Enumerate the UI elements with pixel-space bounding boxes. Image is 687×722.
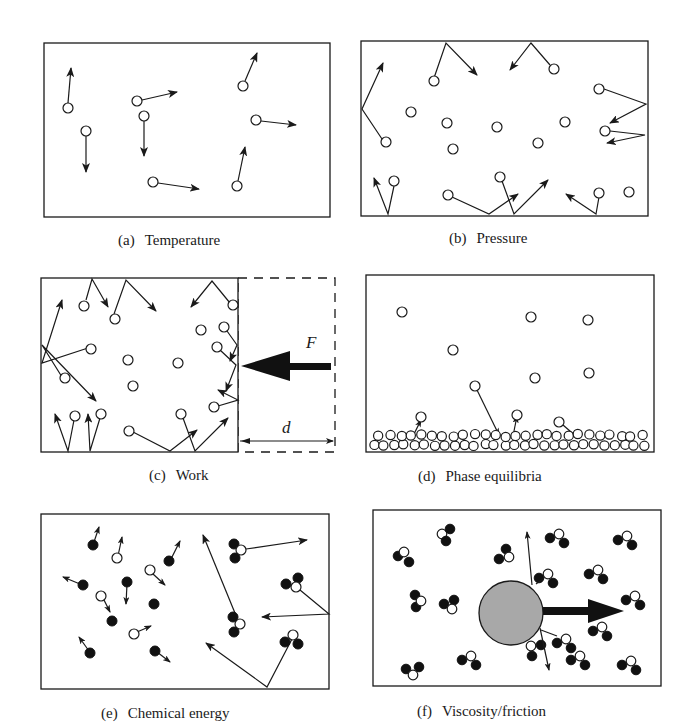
panel-temperature: (a)Temperature xyxy=(44,43,330,249)
container-box xyxy=(41,278,238,452)
distance-label: d xyxy=(282,418,291,437)
panel-caption-work: (c)Work xyxy=(149,467,209,484)
panel-pressure: (b)Pressure xyxy=(361,41,648,247)
force-label: F xyxy=(305,333,317,352)
container-box xyxy=(366,275,654,452)
panel-chemical-energy: (e)Chemical energy xyxy=(41,514,329,722)
panel-caption-pressure: (b)Pressure xyxy=(449,230,528,247)
force-arrow xyxy=(241,351,331,381)
displacement-arrow xyxy=(240,438,333,444)
panel-caption-temperature: (a)Temperature xyxy=(118,232,221,249)
panel-viscosity-friction: (f)Viscosity/friction xyxy=(373,510,661,720)
panel-phase-equilibria: (d)Phase equilibria xyxy=(366,275,654,485)
panel-caption-viscosity-friction: (f)Viscosity/friction xyxy=(417,703,547,720)
figure-canvas: (a)Temperature xyxy=(0,0,687,722)
moving-sphere xyxy=(479,581,543,645)
panel-caption-phase-equilibria: (d)Phase equilibria xyxy=(418,468,542,485)
panel-work: F d (c)Work xyxy=(41,278,335,484)
container-box xyxy=(41,514,329,689)
panel-caption-chemical-energy: (e)Chemical energy xyxy=(101,705,230,722)
